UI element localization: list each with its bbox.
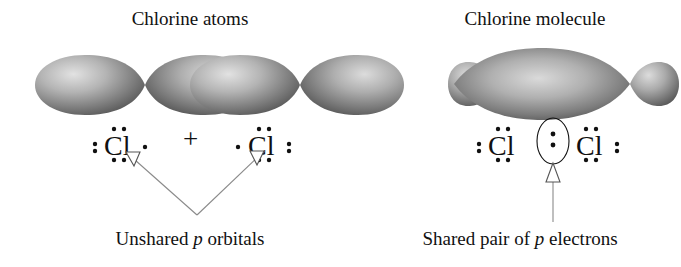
caption-right-suffix: electrons — [544, 228, 617, 249]
p-orbital-lobe-left-atom-1 — [35, 55, 145, 115]
svg-text:Cl: Cl — [576, 130, 603, 161]
p-orbital-lobe-right-atom-2 — [300, 55, 404, 115]
orbital-overlap-figure: Chlorine atoms Chlorine molecule — [0, 0, 681, 267]
molecule-overlap-lobe-center — [454, 48, 630, 120]
p-orbital-lobe-left-atom-2 — [190, 55, 300, 115]
lewis-structure-atom-2: Cl — [228, 124, 302, 169]
p-orbital-lobe-right-atom-1 — [145, 55, 255, 115]
molecule-outer-lobe-right — [630, 62, 679, 106]
caption-right-prefix: Shared pair of — [422, 228, 534, 249]
svg-text:Cl: Cl — [104, 130, 131, 161]
svg-text:Cl: Cl — [488, 130, 515, 161]
shared-pair-pointer — [546, 163, 560, 222]
caption-left-suffix: orbitals — [203, 228, 265, 249]
lewis-structure-atom-1: Cl — [88, 124, 162, 169]
unshared-orbitals-caption: Unshared p orbitals — [40, 228, 340, 250]
plus-operator: + — [183, 126, 198, 153]
caption-left-prefix: Unshared — [116, 228, 194, 249]
caption-left-italic-p: p — [193, 228, 203, 249]
caption-right-italic-p: p — [535, 228, 545, 249]
shared-electron-dot-top — [551, 132, 556, 137]
molecule-outer-lobe-left — [448, 62, 497, 106]
svg-text:Cl: Cl — [248, 130, 275, 161]
shared-pair-caption: Shared pair of p electrons — [370, 228, 670, 250]
lewis-structure-molecule-left-cl: Cl — [472, 124, 542, 169]
lewis-structure-molecule-right-cl: Cl — [572, 124, 642, 169]
p-orbital-atom-1 — [35, 55, 255, 115]
cl2-molecule-orbitals — [448, 48, 679, 120]
right-panel-title: Chlorine molecule — [400, 8, 670, 30]
p-orbital-atom-2 — [190, 55, 404, 115]
shared-electron-dot-bottom — [551, 143, 556, 148]
pointer-arrowhead-up — [546, 163, 560, 182]
left-panel-title: Chlorine atoms — [60, 8, 320, 30]
